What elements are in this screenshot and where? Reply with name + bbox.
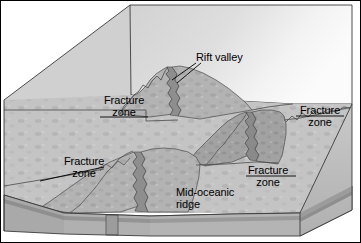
label-fracture-zone-upper-left: Fracture zone: [104, 94, 144, 118]
label-fracture-zone-right-line-2: zone: [300, 116, 340, 128]
label-rift-valley: Rift valley: [196, 52, 243, 64]
label-fracture-zone-lower-right-line-2: zone: [248, 176, 288, 188]
label-fracture-zone-right-line-1: Fracture: [300, 104, 340, 116]
label-fracture-zone-lower-left-line-2: zone: [64, 167, 104, 179]
label-fracture-zone-right: Fracture zone: [300, 104, 340, 128]
label-fracture-zone-upper-left-line-1: Fracture: [104, 94, 144, 106]
label-mid-oceanic-ridge-line-2: ridge: [176, 198, 234, 210]
label-fracture-zone-lower-right-line-1: Fracture: [248, 164, 288, 176]
label-mid-oceanic-ridge: Mid-oceanic ridge: [176, 186, 234, 210]
block-diagram-figure: Rift valley Fracture zone Fracture zone …: [0, 0, 361, 243]
label-mid-oceanic-ridge-line-1: Mid-oceanic: [176, 186, 234, 198]
label-rift-valley-line-1: Rift valley: [196, 52, 243, 64]
label-fracture-zone-upper-left-line-2: zone: [104, 106, 144, 118]
label-fracture-zone-lower-left-line-1: Fracture: [64, 155, 104, 167]
label-fracture-zone-lower-left: Fracture zone: [64, 155, 104, 179]
label-fracture-zone-lower-right: Fracture zone: [248, 164, 288, 188]
